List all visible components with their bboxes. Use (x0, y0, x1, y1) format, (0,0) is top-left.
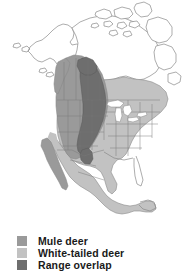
legend-item-white-tailed-deer: White-tailed deer (17, 247, 124, 259)
legend-label-mule-deer: Mule deer (38, 236, 88, 247)
map-legend: Mule deer White-tailed deer Range overla… (0, 232, 185, 274)
legend-label-white-tailed-deer: White-tailed deer (38, 248, 124, 259)
legend-swatch-white-tailed-deer (17, 248, 27, 258)
arctic-island-victoria (114, 7, 133, 19)
legend-label-range-overlap: Range overlap (38, 260, 112, 271)
legend-swatch-range-overlap (17, 260, 27, 270)
map-svg (0, 0, 185, 228)
legend-item-range-overlap: Range overlap (17, 259, 112, 271)
legend-swatch-mule-deer (17, 236, 27, 246)
hudson-bay-east-shore (154, 44, 176, 70)
coast-florida (134, 156, 143, 186)
lake-michigan (115, 108, 122, 122)
deer-range-figure: Mule deer White-tailed deer Range overla… (0, 0, 185, 274)
arctic-island-ellesmere (134, 2, 152, 17)
newfoundland-shape (168, 72, 181, 85)
legend-item-mule-deer: Mule deer (17, 235, 88, 247)
north-america-range-map (0, 0, 185, 228)
